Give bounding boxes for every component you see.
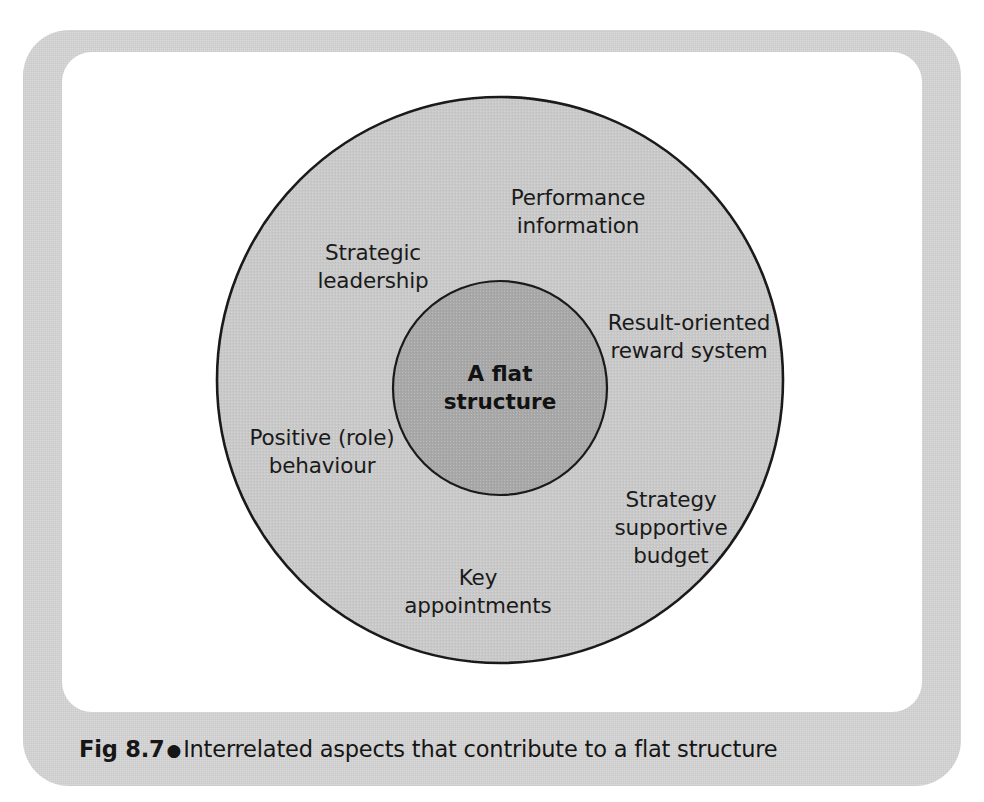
key-appointments-line-1: Key (459, 565, 498, 590)
strategy-supportive-budget-line-2: supportive (615, 515, 728, 540)
performance-information-line-2: information (517, 213, 639, 238)
figure-title: Interrelated aspects that contribute to … (183, 736, 777, 762)
performance-information-line-1: Performance (511, 185, 646, 210)
figure-page: A flat structure Performance information… (0, 0, 984, 802)
diagram-stage: A flat structure Performance information… (0, 0, 984, 720)
concentric-circle-diagram: A flat structure Performance information… (0, 0, 984, 720)
bullet-icon: ● (164, 740, 183, 760)
strategy-supportive-budget-line-1: Strategy (626, 487, 717, 512)
strategic-leadership-line-1: Strategic (325, 240, 421, 265)
result-oriented-reward-system-line-2: reward system (610, 338, 767, 363)
positive-role-behaviour-line-2: behaviour (269, 453, 376, 478)
figure-caption: Fig 8.7●Interrelated aspects that contri… (79, 736, 777, 762)
positive-role-behaviour-line-1: Positive (role) (250, 425, 395, 450)
inner-circle-texture (394, 282, 606, 494)
strategy-supportive-budget-line-3: budget (633, 543, 708, 568)
key-appointments-line-2: appointments (404, 593, 551, 618)
figure-number: Fig 8.7 (79, 736, 164, 762)
core-label-line-1: A flat (468, 361, 533, 386)
result-oriented-reward-system-line-1: Result-oriented (608, 310, 770, 335)
figure-caption-band: Fig 8.7●Interrelated aspects that contri… (23, 712, 961, 786)
core-label-line-2: structure (444, 389, 557, 414)
strategic-leadership-line-2: leadership (317, 268, 428, 293)
